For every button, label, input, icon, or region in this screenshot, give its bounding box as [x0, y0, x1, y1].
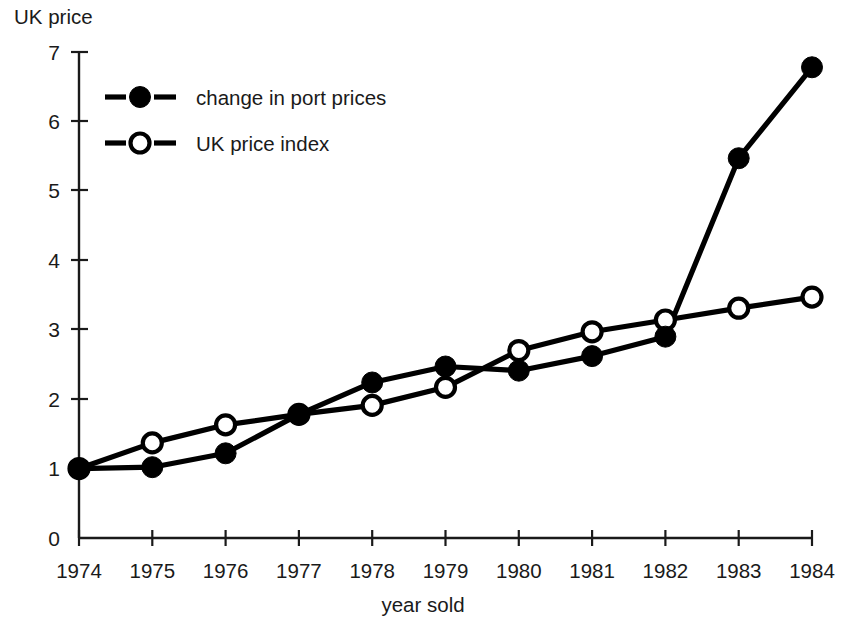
- data-point-filled: [582, 346, 603, 367]
- data-point-open: [363, 396, 382, 415]
- chart-legend: change in port prices UK price index: [105, 86, 386, 155]
- y-tick-label: 2: [48, 388, 60, 411]
- data-point-open: [143, 433, 162, 452]
- x-axis-tick-labels: 1974197519761977197819791980198119821983…: [56, 559, 835, 582]
- data-point-open: [803, 288, 822, 307]
- legend-label-change-in-port-prices: change in port prices: [196, 86, 386, 109]
- data-point-open: [729, 299, 748, 318]
- legend-entry-change-in-port-prices: change in port prices: [105, 86, 386, 109]
- data-point-filled: [215, 443, 236, 464]
- y-axis-title: UK price: [14, 5, 93, 28]
- series-markers-uk-price-index: [70, 288, 822, 478]
- legend-entry-uk-price-index: UK price index: [105, 132, 330, 155]
- data-point-open: [583, 322, 602, 341]
- data-point-filled: [435, 356, 456, 377]
- data-point-filled: [802, 57, 823, 78]
- data-point-filled: [142, 457, 163, 478]
- x-tick-label: 1982: [643, 559, 689, 582]
- legend-label-uk-price-index: UK price index: [196, 132, 330, 155]
- y-tick-label: 7: [48, 41, 60, 64]
- open-circle-icon: [131, 134, 150, 153]
- series-line-change-in-port-prices: [79, 67, 812, 468]
- x-tick-label: 1979: [423, 559, 469, 582]
- data-point-filled: [288, 404, 309, 425]
- y-tick-label: 4: [48, 249, 60, 272]
- data-point-open: [436, 378, 455, 397]
- x-tick-label: 1976: [203, 559, 249, 582]
- data-point-open: [509, 341, 528, 360]
- y-tick-label: 6: [48, 110, 60, 133]
- data-point-filled: [728, 148, 749, 169]
- data-point-filled: [655, 326, 676, 347]
- x-tick-label: 1984: [789, 559, 835, 582]
- data-point-filled: [69, 458, 90, 479]
- data-point-filled: [508, 360, 529, 381]
- x-tick-label: 1983: [716, 559, 762, 582]
- filled-circle-icon: [130, 87, 151, 108]
- x-tick-label: 1981: [569, 559, 615, 582]
- y-axis-tick-labels: 7 6 5 4 3 2 1 0: [48, 41, 60, 550]
- x-tick-label: 1977: [276, 559, 322, 582]
- data-point-filled: [362, 372, 383, 393]
- y-tick-label: 0: [48, 527, 60, 550]
- series-markers-change-in-port-prices: [69, 57, 823, 479]
- chart-page: UK price 7 6 5 4 3 2 1 0 197: [0, 0, 847, 622]
- x-tick-label: 1974: [56, 559, 102, 582]
- x-axis-title: year sold: [381, 593, 464, 616]
- x-tick-label: 1978: [349, 559, 395, 582]
- x-tick-label: 1980: [496, 559, 542, 582]
- data-point-open: [216, 415, 235, 434]
- y-tick-label: 3: [48, 318, 60, 341]
- y-tick-label: 5: [48, 179, 60, 202]
- line-chart: UK price 7 6 5 4 3 2 1 0 197: [0, 0, 847, 622]
- x-tick-label: 1975: [129, 559, 175, 582]
- y-tick-label: 1: [48, 457, 60, 480]
